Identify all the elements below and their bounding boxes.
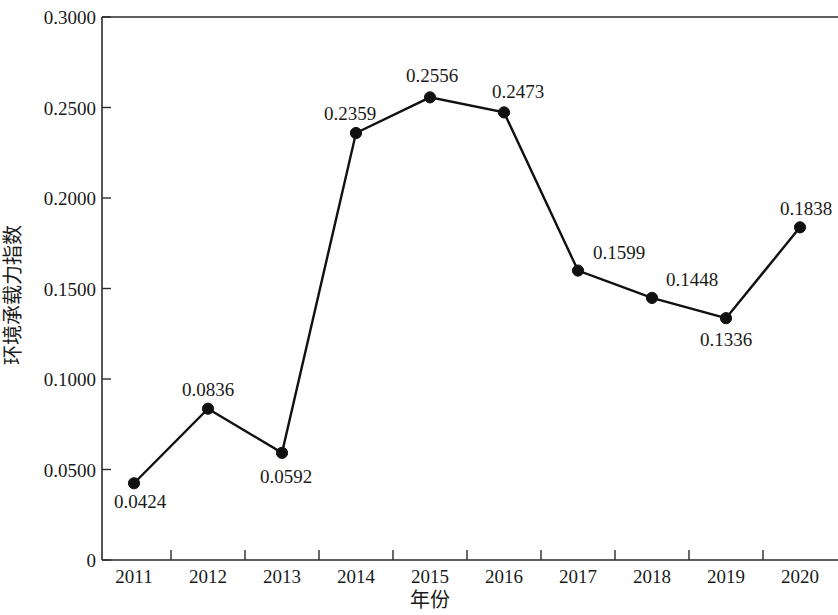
x-axis-title: 年份 bbox=[410, 589, 450, 611]
y-tick-label-5: 0.2500 bbox=[44, 98, 96, 119]
data-point-2014 bbox=[350, 127, 361, 138]
x-tick-label-2011: 2011 bbox=[115, 566, 152, 587]
point-label-2019: 0.1336 bbox=[700, 329, 752, 350]
point-label-2012: 0.0836 bbox=[182, 379, 234, 400]
data-point-markers bbox=[128, 92, 805, 489]
data-point-2017 bbox=[572, 265, 583, 276]
data-point-2012 bbox=[202, 403, 213, 414]
y-axis-title: 环境承载力指数 bbox=[2, 225, 24, 365]
point-label-2013: 0.0592 bbox=[260, 466, 312, 487]
data-point-2013 bbox=[276, 447, 287, 458]
y-tick-label-6: 0.3000 bbox=[44, 7, 96, 28]
point-label-2011: 0.0424 bbox=[114, 491, 167, 512]
x-tick-label-2017: 2017 bbox=[559, 566, 597, 587]
x-tick-marks bbox=[171, 550, 763, 560]
point-label-2017: 0.1599 bbox=[593, 242, 645, 263]
data-point-2018 bbox=[646, 292, 657, 303]
y-tick-label-4: 0.2000 bbox=[44, 188, 96, 209]
data-series-line bbox=[134, 97, 800, 483]
x-tick-label-2012: 2012 bbox=[189, 566, 227, 587]
x-tick-label-2014: 2014 bbox=[337, 566, 376, 587]
x-tick-label-2016: 2016 bbox=[485, 566, 523, 587]
x-tick-label-2020: 2020 bbox=[781, 566, 819, 587]
x-tick-label-2015: 2015 bbox=[411, 566, 449, 587]
data-point-2016 bbox=[498, 107, 509, 118]
point-label-2015: 0.2556 bbox=[406, 65, 458, 86]
point-label-2020: 0.1838 bbox=[780, 198, 832, 219]
data-point-2020 bbox=[794, 222, 805, 233]
chart-canvas: 0 0.0500 0.1000 0.1500 0.2000 0.2500 0.3… bbox=[0, 0, 838, 615]
data-point-2019 bbox=[720, 313, 731, 324]
y-tick-label-2: 0.1000 bbox=[44, 369, 96, 390]
data-point-2011 bbox=[128, 478, 139, 489]
x-tick-label-2018: 2018 bbox=[633, 566, 671, 587]
point-label-2018: 0.1448 bbox=[666, 269, 718, 290]
line-chart-figure: 0 0.0500 0.1000 0.1500 0.2000 0.2500 0.3… bbox=[0, 0, 838, 615]
y-tick-label-1: 0.0500 bbox=[44, 460, 96, 481]
point-label-2014: 0.2359 bbox=[324, 103, 376, 124]
x-tick-label-2013: 2013 bbox=[263, 566, 301, 587]
x-tick-label-2019: 2019 bbox=[707, 566, 745, 587]
y-tick-marks bbox=[102, 17, 111, 560]
point-label-2016: 0.2473 bbox=[492, 81, 544, 102]
data-point-2015 bbox=[424, 92, 435, 103]
y-tick-label-3: 0.1500 bbox=[44, 279, 96, 300]
y-tick-label-0: 0 bbox=[87, 550, 97, 571]
